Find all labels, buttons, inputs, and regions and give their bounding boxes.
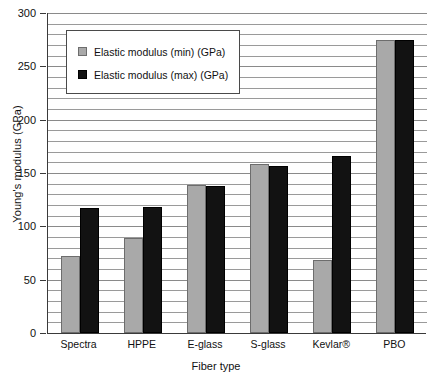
- x-axis-title: Fiber type: [0, 360, 432, 372]
- bar-chart-figure: Young's modulus (GPa) 050100150200250300…: [0, 0, 432, 380]
- bar-min: [376, 40, 395, 333]
- gridline: [48, 237, 427, 238]
- gridline: [48, 173, 427, 174]
- bar-min: [61, 256, 80, 333]
- legend-item-min: Elastic modulus (min) (GPa): [78, 40, 239, 63]
- gridline: [48, 130, 427, 131]
- gridline: [48, 290, 427, 291]
- y-tick-label: 100: [0, 220, 36, 232]
- gridline: [48, 120, 427, 121]
- bar-min: [313, 260, 332, 333]
- y-tick-label: 0: [0, 327, 36, 339]
- legend-label-min: Elastic modulus (min) (GPa): [94, 46, 225, 58]
- bar-min: [250, 164, 269, 333]
- bar-max: [395, 40, 414, 333]
- chart-legend: Elastic modulus (min) (GPa) Elastic modu…: [66, 30, 240, 94]
- y-tick-mark: [40, 120, 46, 121]
- gridline: [48, 258, 427, 259]
- gridline: [48, 280, 427, 281]
- bar-max: [143, 207, 162, 333]
- gridline: [48, 269, 427, 270]
- gridline: [48, 205, 427, 206]
- gridline: [48, 312, 427, 313]
- bar-max: [80, 208, 99, 333]
- bar-min: [124, 238, 143, 333]
- bar-max: [269, 166, 288, 333]
- gridline: [48, 141, 427, 142]
- bar-group: [313, 13, 351, 333]
- y-tick-label: 300: [0, 7, 36, 19]
- gridline: [48, 194, 427, 195]
- x-tick-label: PBO: [349, 338, 432, 350]
- legend-swatch-min-icon: [78, 47, 87, 56]
- gridline: [48, 162, 427, 163]
- bar-max: [332, 156, 351, 333]
- legend-label-max: Elastic modulus (max) (GPa): [94, 69, 228, 81]
- gridline: [48, 152, 427, 153]
- gridline: [48, 248, 427, 249]
- x-axis-line: [47, 333, 426, 334]
- y-tick-mark: [40, 226, 46, 227]
- y-tick-mark: [40, 280, 46, 281]
- gridline: [48, 226, 427, 227]
- legend-swatch-max-icon: [78, 70, 87, 79]
- bar-group: [250, 13, 288, 333]
- y-tick-mark: [40, 13, 46, 14]
- y-tick-mark: [40, 333, 46, 334]
- bar-min: [187, 185, 206, 333]
- y-tick-mark: [40, 66, 46, 67]
- gridline: [48, 109, 427, 110]
- gridline: [48, 13, 427, 14]
- gridline: [48, 322, 427, 323]
- gridline: [48, 24, 427, 25]
- bar-group: [376, 13, 414, 333]
- bar-max: [206, 186, 225, 333]
- gridline: [48, 98, 427, 99]
- y-tick-label: 200: [0, 114, 36, 126]
- gridline: [48, 216, 427, 217]
- y-tick-label: 150: [0, 167, 36, 179]
- y-tick-mark: [40, 173, 46, 174]
- y-tick-label: 250: [0, 60, 36, 72]
- gridline: [48, 184, 427, 185]
- y-tick-label: 50: [0, 274, 36, 286]
- legend-item-max: Elastic modulus (max) (GPa): [78, 63, 239, 86]
- gridline: [48, 301, 427, 302]
